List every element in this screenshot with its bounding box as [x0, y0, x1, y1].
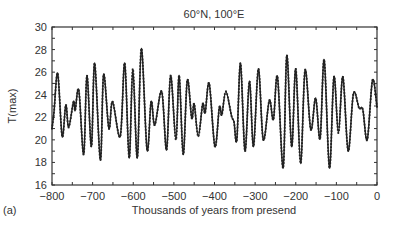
data-point — [185, 97, 187, 99]
data-point — [92, 89, 94, 91]
data-point — [336, 123, 338, 125]
data-point — [101, 140, 103, 142]
data-point — [335, 87, 337, 89]
data-point — [55, 83, 57, 85]
data-point — [98, 144, 100, 146]
data-point — [309, 123, 311, 125]
data-point — [63, 119, 65, 121]
data-point — [298, 142, 300, 144]
data-point — [79, 96, 81, 98]
data-point — [255, 102, 257, 104]
data-point — [90, 145, 92, 147]
data-point — [321, 114, 323, 116]
data-point — [283, 149, 285, 151]
data-point — [302, 126, 304, 128]
data-point — [75, 108, 77, 110]
data-point — [126, 111, 128, 113]
data-point — [67, 124, 69, 126]
data-point — [163, 109, 165, 111]
data-point — [60, 125, 62, 127]
data-point — [344, 95, 346, 97]
data-point — [238, 75, 240, 77]
data-point — [371, 86, 373, 88]
data-point — [240, 71, 242, 73]
data-point — [311, 124, 313, 126]
data-point — [274, 95, 276, 97]
data-point — [65, 104, 67, 106]
data-point — [162, 106, 164, 108]
data-point — [120, 134, 122, 136]
data-point — [321, 95, 323, 97]
data-point — [127, 130, 129, 132]
data-point — [325, 96, 327, 98]
data-point — [84, 122, 86, 124]
data-point — [340, 104, 342, 106]
data-point — [351, 107, 353, 109]
data-point — [114, 113, 116, 115]
data-point — [344, 98, 346, 100]
data-point — [289, 119, 291, 121]
data-point — [167, 120, 169, 122]
data-point — [307, 91, 309, 93]
data-point — [246, 118, 248, 120]
data-point — [63, 129, 65, 131]
data-point — [87, 81, 89, 83]
data-point — [243, 138, 245, 140]
data-point — [367, 130, 369, 132]
data-point — [144, 119, 146, 121]
data-point — [196, 127, 198, 129]
data-point — [138, 97, 140, 99]
data-point — [317, 125, 319, 127]
x-tick-label: −600 — [121, 190, 146, 202]
data-point — [274, 98, 276, 100]
data-point — [258, 75, 260, 77]
data-point — [321, 101, 323, 103]
data-point — [303, 94, 305, 96]
data-point — [259, 84, 261, 86]
data-point — [79, 109, 81, 111]
data-point — [166, 142, 168, 144]
data-point — [301, 142, 303, 144]
data-point — [176, 114, 178, 116]
data-point — [135, 124, 137, 126]
data-point — [278, 102, 280, 104]
data-point — [319, 136, 321, 138]
data-point — [123, 70, 125, 72]
data-point — [177, 108, 179, 110]
data-point — [184, 139, 186, 141]
data-point — [168, 113, 170, 115]
data-point — [250, 110, 252, 112]
data-point — [183, 151, 185, 153]
data-point — [126, 118, 128, 120]
data-point — [174, 129, 176, 131]
data-point — [231, 115, 233, 117]
data-point — [313, 108, 315, 110]
data-point — [351, 110, 353, 112]
data-point — [111, 103, 113, 105]
data-point — [106, 109, 108, 111]
data-point — [240, 68, 242, 70]
data-point — [256, 77, 258, 79]
data-point — [78, 93, 80, 95]
data-point — [330, 146, 332, 148]
data-point — [313, 111, 315, 113]
data-point — [127, 124, 129, 126]
data-point — [295, 71, 297, 73]
data-point — [92, 86, 94, 88]
data-point — [138, 113, 140, 115]
data-point — [238, 101, 240, 103]
data-point — [367, 137, 369, 139]
data-point — [298, 138, 300, 140]
data-point — [339, 120, 341, 122]
data-point — [87, 85, 89, 87]
data-point — [289, 112, 291, 114]
data-point — [195, 118, 197, 120]
data-point — [184, 135, 186, 137]
data-point — [250, 97, 252, 99]
data-point — [370, 89, 372, 91]
data-point — [54, 102, 56, 104]
data-point — [116, 126, 118, 128]
data-point — [89, 136, 91, 138]
data-point — [161, 93, 163, 95]
data-point — [246, 115, 248, 117]
